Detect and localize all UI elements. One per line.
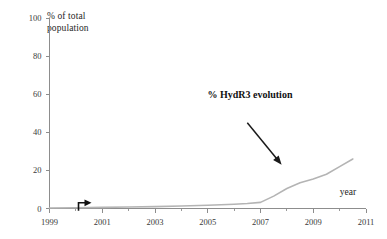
y-tick-group: 020406080100 [29, 13, 50, 214]
chart-figure: % of total population 020406080100 19992… [0, 0, 387, 239]
x-tick-label: 2011 [358, 217, 375, 227]
start-marker-arrowhead [85, 199, 92, 206]
line-chart: 020406080100 199920012003200520072009201… [0, 0, 387, 239]
series-line-hydr3 [50, 159, 353, 208]
start-marker-annotation [79, 199, 92, 210]
x-tick-label: 1999 [41, 217, 58, 227]
callout-arrow-line [247, 123, 277, 159]
y-axis: 020406080100 [29, 13, 50, 214]
y-tick-label: 40 [33, 127, 42, 137]
x-tick-group: 1999200120032005200720092011 [41, 209, 374, 227]
plot-area [50, 159, 353, 208]
callout-annotation: % HydR3 evolution [207, 89, 292, 165]
start-marker-elbow [79, 203, 86, 211]
y-tick-label: 20 [33, 165, 42, 175]
y-tick-label: 0 [37, 204, 41, 214]
x-tick-label: 2005 [199, 217, 216, 227]
y-tick-label: 80 [33, 51, 42, 61]
y-tick-label: 100 [29, 13, 42, 23]
x-tick-label: 2009 [305, 217, 322, 227]
y-tick-label: 60 [33, 89, 42, 99]
callout-label: % HydR3 evolution [207, 89, 292, 100]
x-tick-label: 2001 [94, 217, 111, 227]
x-axis: 1999200120032005200720092011 [41, 209, 374, 227]
x-tick-label: 2007 [252, 217, 269, 227]
x-tick-label: 2003 [147, 217, 164, 227]
x-axis-title: year [340, 187, 357, 197]
